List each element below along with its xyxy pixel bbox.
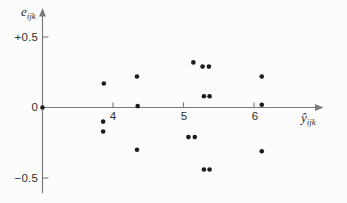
x-tick-label-6: 6 — [243, 110, 267, 123]
data-point — [207, 64, 212, 69]
data-point — [102, 81, 107, 86]
data-point — [135, 74, 140, 79]
data-point — [101, 129, 106, 134]
data-point — [202, 94, 207, 99]
data-point — [135, 104, 140, 109]
data-point — [135, 148, 140, 153]
y-tick-label-plus05: +0.5 — [0, 31, 38, 44]
y-axis-label: eijk — [21, 4, 36, 24]
data-point — [259, 102, 264, 107]
y-axis-label-subscript: ijk — [27, 11, 36, 21]
data-point — [202, 167, 207, 172]
y-tick-label-minus05: −0.5 — [0, 172, 38, 185]
data-point — [259, 74, 264, 79]
data-point — [207, 167, 212, 172]
y-axis-arrowhead — [39, 8, 46, 17]
data-point — [259, 149, 264, 154]
x-axis-label: ŷijk — [301, 110, 316, 130]
data-point — [191, 60, 196, 65]
x-tick-label-4: 4 — [101, 110, 125, 123]
data-point — [186, 135, 191, 140]
data-point — [40, 105, 45, 110]
y-tick-label-zero: 0 — [0, 101, 38, 114]
data-point — [200, 64, 205, 69]
x-axis-arrowhead — [315, 104, 324, 111]
residual-scatter-plot: eijk ŷijk +0.5 0 −0.5 4 5 6 — [0, 0, 347, 203]
data-point — [207, 94, 212, 99]
data-point — [192, 135, 197, 140]
scatter-plot-canvas — [0, 0, 347, 203]
x-tick-label-5: 5 — [172, 110, 196, 123]
x-axis-label-subscript: ijk — [307, 117, 316, 127]
